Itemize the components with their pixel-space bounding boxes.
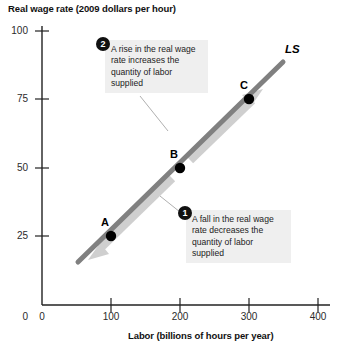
annotation-badge-2: 2 [96,37,110,51]
x-tick-label-200: 200 [165,311,195,322]
point-label-b: B [170,148,178,160]
labor-supply-chart: Real wage rate (2009 dollars per hour) L… [0,0,343,353]
y-tick-label-100: 100 [2,25,28,36]
point-label-c: C [240,79,248,91]
annotation-box-1: A fall in the real wage rate decreases t… [186,210,291,263]
y-tick-label-0: 0 [2,311,28,322]
x-tick-label-0: 0 [27,311,57,322]
point-label-a: A [101,216,109,228]
y-tick-label-25: 25 [2,230,28,241]
y-tick-label-75: 75 [2,93,28,104]
data-point-b [175,163,185,173]
annotation-badge-1: 1 [178,206,192,220]
data-point-c [244,94,254,104]
callout-2-leader [140,96,168,131]
x-tick-label-100: 100 [96,311,126,322]
y-tick-label-50: 50 [2,162,28,173]
x-tick-label-400: 400 [303,311,333,322]
data-point-a [106,231,116,241]
y-axis-title: Real wage rate (2009 dollars per hour) [8,3,176,14]
x-tick-label-300: 300 [234,311,264,322]
curve-label-ls: LS [285,43,300,55]
annotation-box-2: A rise in the real wage rate increases t… [105,40,208,93]
x-axis-title: Labor (billions of hours per year) [128,330,273,341]
